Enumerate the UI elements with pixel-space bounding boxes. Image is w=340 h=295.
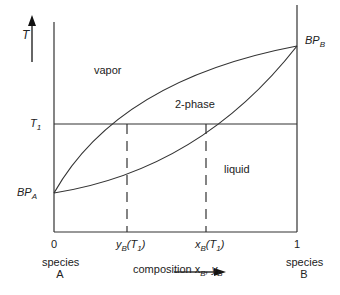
dew-point-curve: [54, 46, 297, 193]
t1-label: T1: [30, 117, 41, 132]
two-phase-region-label: 2-phase: [175, 98, 215, 110]
bubble-point-curve: [54, 46, 297, 193]
x-tick-0: 0: [51, 238, 57, 250]
vapor-region-label: vapor: [94, 64, 122, 76]
xb-t1-label: xB(T1): [195, 238, 224, 253]
species-b-label: speciesB: [286, 256, 322, 280]
x-tick-1: 1: [294, 238, 300, 250]
species-a-label: speciesA: [42, 256, 78, 280]
phase-diagram-graphics: [0, 0, 340, 295]
composition-axis-label: composition xB, yB: [133, 263, 223, 278]
t-axis-label: T: [22, 28, 29, 42]
liquid-region-label: liquid: [224, 163, 250, 175]
t-arrow-head-icon: [28, 15, 36, 26]
bp-a-label: BPA: [17, 186, 37, 201]
bp-b-label: BPB: [305, 34, 325, 49]
yb-t1-label: yB(T1): [116, 238, 145, 253]
